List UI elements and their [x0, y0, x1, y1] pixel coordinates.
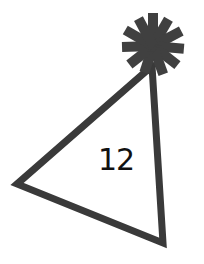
hat-number-label: 12 [90, 143, 142, 177]
party-hat-illustration [0, 0, 204, 264]
party-hat-icon [0, 0, 204, 264]
